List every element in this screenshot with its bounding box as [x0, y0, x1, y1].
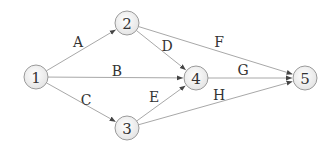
node-label: 3	[122, 120, 132, 138]
edge-label-h: H	[213, 87, 225, 103]
edge-label-b: B	[112, 63, 122, 79]
edge-label-e: E	[149, 89, 159, 105]
node-1: 1	[24, 65, 48, 89]
node-3: 3	[115, 116, 139, 140]
network-diagram: ABCDEFGH 12345	[0, 0, 335, 149]
edge-label-c: C	[81, 92, 92, 108]
nodes-layer: 12345	[24, 11, 317, 140]
node-label: 4	[191, 70, 201, 88]
node-5: 5	[293, 66, 317, 90]
node-label: 5	[300, 70, 310, 88]
edge-e	[137, 86, 186, 121]
node-label: 1	[31, 69, 41, 87]
edge-label-d: D	[161, 38, 172, 54]
edge-label-g: G	[237, 62, 248, 78]
edge-label-f: F	[214, 34, 224, 50]
node-4: 4	[184, 66, 208, 90]
edge-labels-layer: ABCDEFGH	[72, 34, 249, 108]
node-2: 2	[115, 11, 139, 35]
edge-label-a: A	[72, 34, 84, 50]
node-label: 2	[122, 15, 132, 33]
